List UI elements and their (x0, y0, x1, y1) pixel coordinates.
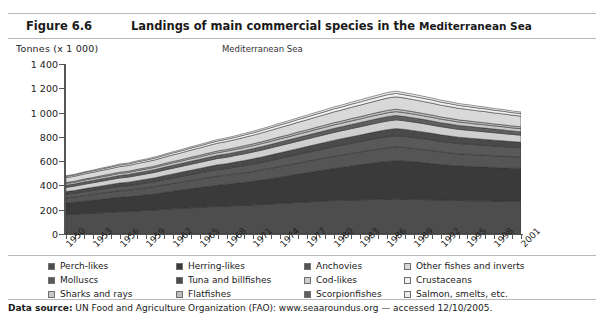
chart-legend: Perch-likesMolluscsSharks and raysHerrin… (8, 255, 596, 300)
legend-label: Molluscs (60, 275, 98, 285)
legend-label: Salmon, smelts, etc. (416, 289, 508, 299)
y-tick-label: 1 400 (31, 59, 58, 70)
legend-column: AnchoviesCod-likesScorpionfishes (304, 259, 382, 301)
figure-title-region: Mediterranean Sea (419, 20, 532, 32)
y-axis-unit-label: Tonnes (x 1 000) (16, 43, 98, 54)
legend-item[interactable]: Cod-likes (304, 273, 382, 287)
y-tick-label: 200 (40, 204, 58, 215)
legend-swatch-icon (176, 277, 183, 284)
legend-item[interactable]: Molluscs (48, 273, 132, 287)
legend-column: Perch-likesMolluscsSharks and rays (48, 259, 132, 301)
legend-swatch-icon (48, 291, 55, 298)
figure-title: Landings of main commercial species in t… (131, 19, 532, 33)
legend-item[interactable]: Other fishes and inverts (404, 259, 524, 273)
legend-item[interactable]: Flatfishes (176, 287, 271, 301)
legend-swatch-icon (48, 277, 55, 284)
legend-column: Other fishes and invertsCrustaceansSalmo… (404, 259, 524, 301)
figure-title-main: Landings of main commercial species in t… (131, 19, 419, 33)
y-tick-label: 0 (52, 229, 58, 240)
legend-swatch-icon (304, 263, 311, 270)
legend-swatch-icon (304, 291, 311, 298)
legend-item[interactable]: Anchovies (304, 259, 382, 273)
x-tick-label: 2001 (519, 226, 542, 249)
legend-label: Sharks and rays (60, 289, 132, 299)
figure-header: Figure 6.6 Landings of main commercial s… (8, 13, 596, 39)
legend-label: Other fishes and inverts (416, 261, 524, 271)
legend-label: Scorpionfishes (316, 289, 382, 299)
y-axis-labels: 02004006008001 0001 2001 400 (8, 64, 62, 234)
legend-swatch-icon (176, 263, 183, 270)
legend-item[interactable]: Sharks and rays (48, 287, 132, 301)
y-tick-label: 1 200 (31, 83, 58, 94)
legend-item[interactable]: Perch-likes (48, 259, 132, 273)
figure-panel: Figure 6.6 Landings of main commercial s… (0, 0, 604, 326)
y-tick-label: 600 (40, 156, 58, 167)
y-tick-label: 400 (40, 180, 58, 191)
legend-label: Crustaceans (416, 275, 472, 285)
legend-swatch-icon (48, 263, 55, 270)
legend-swatch-icon (304, 277, 311, 284)
legend-label: Cod-likes (316, 275, 357, 285)
legend-label: Tuna and billfishes (188, 275, 271, 285)
data-source-text: UN Food and Agriculture Organization (FA… (72, 303, 492, 313)
legend-swatch-icon (404, 263, 411, 270)
legend-item[interactable]: Tuna and billfishes (176, 273, 271, 287)
legend-swatch-icon (176, 291, 183, 298)
legend-label: Perch-likes (60, 261, 108, 271)
legend-item[interactable]: Scorpionfishes (304, 287, 382, 301)
legend-swatch-icon (404, 277, 411, 284)
legend-column: Herring-likesTuna and billfishesFlatfish… (176, 259, 271, 301)
area-series-svg (66, 64, 521, 234)
legend-item[interactable]: Salmon, smelts, etc. (404, 287, 524, 301)
legend-label: Flatfishes (188, 289, 231, 299)
stacked-area-plot (66, 64, 521, 234)
y-tick-label: 800 (40, 131, 58, 142)
legend-label: Anchovies (316, 261, 362, 271)
data-source-label: Data source: (8, 303, 72, 313)
data-source-note: Data source: UN Food and Agriculture Org… (8, 303, 596, 319)
legend-item[interactable]: Herring-likes (176, 259, 271, 273)
figure-number: Figure 6.6 (26, 19, 131, 33)
y-tick-label: 1 000 (31, 107, 58, 118)
chart-panel-title: Mediterranean Sea (222, 44, 303, 54)
legend-label: Herring-likes (188, 261, 245, 271)
legend-item[interactable]: Crustaceans (404, 273, 524, 287)
legend-swatch-icon (404, 291, 411, 298)
